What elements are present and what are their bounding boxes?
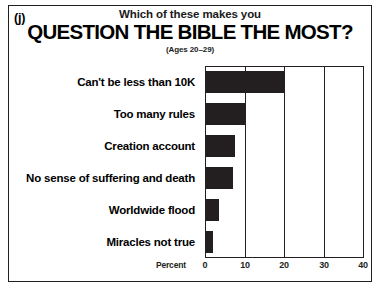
bar-row <box>205 98 363 130</box>
x-tick-label: 10 <box>240 260 250 270</box>
bar-row <box>205 66 363 98</box>
category-label: Worldwide flood <box>109 194 195 226</box>
plot-area <box>205 66 363 258</box>
category-label: Can't be less than 10K <box>77 66 195 98</box>
chart-title-block: Which of these makes you QUESTION THE BI… <box>8 8 372 55</box>
bar <box>205 199 219 221</box>
bar-row <box>205 226 363 258</box>
bar <box>205 71 284 93</box>
x-tick-label: 20 <box>279 260 289 270</box>
x-axis-title: Percent <box>156 260 186 270</box>
chart-subtitle: (Ages 20–29) <box>8 45 372 55</box>
bar <box>205 135 235 157</box>
category-label: No sense of suffering and death <box>26 162 195 194</box>
category-axis-labels: Can't be less than 10KToo many rulesCrea… <box>10 66 201 258</box>
bar-row <box>205 162 363 194</box>
category-label: Too many rules <box>114 98 195 130</box>
bar <box>205 103 245 125</box>
x-tick-label: 0 <box>203 260 208 270</box>
x-tick-label: 40 <box>358 260 368 270</box>
bar <box>205 167 233 189</box>
gridline-40 <box>363 66 364 258</box>
category-label: Creation account <box>104 130 195 162</box>
x-axis-ticks: 010203040 <box>205 259 363 275</box>
chart-title-line2: QUESTION THE BIBLE THE MOST? <box>8 21 372 43</box>
bar <box>205 231 213 253</box>
category-label: Miracles not true <box>106 226 195 258</box>
x-tick-label: 30 <box>319 260 329 270</box>
chart-figure: (j) Which of these makes you QUESTION TH… <box>0 0 380 289</box>
bar-row <box>205 194 363 226</box>
bar-series <box>205 66 363 258</box>
bar-row <box>205 130 363 162</box>
